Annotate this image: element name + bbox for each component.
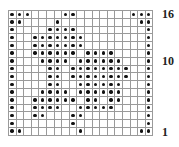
filled-cell	[100, 50, 108, 58]
empty-cell	[93, 128, 101, 136]
filled-cell	[77, 81, 85, 89]
empty-cell	[85, 112, 93, 120]
filled-cell	[115, 97, 123, 105]
filled-cell	[115, 89, 123, 97]
filled-cell	[123, 66, 131, 74]
filled-cell	[9, 50, 17, 58]
empty-cell	[24, 42, 32, 50]
empty-cell	[55, 128, 63, 136]
filled-cell	[100, 66, 108, 74]
filled-cell	[24, 11, 32, 19]
empty-cell	[85, 27, 93, 35]
empty-cell	[24, 105, 32, 113]
filled-cell	[70, 66, 78, 74]
empty-cell	[131, 42, 139, 50]
empty-cell	[24, 19, 32, 27]
filled-cell	[9, 66, 17, 74]
empty-cell	[70, 128, 78, 136]
filled-cell	[93, 89, 101, 97]
filled-cell	[55, 89, 63, 97]
filled-cell	[77, 66, 85, 74]
filled-cell	[77, 73, 85, 81]
empty-cell	[85, 34, 93, 42]
filled-cell	[85, 81, 93, 89]
empty-cell	[17, 112, 25, 120]
empty-cell	[138, 81, 146, 89]
filled-cell	[146, 128, 154, 136]
empty-cell	[24, 50, 32, 58]
filled-cell	[62, 89, 70, 97]
filled-cell	[62, 50, 70, 58]
filled-cell	[70, 112, 78, 120]
filled-cell	[93, 58, 101, 66]
empty-cell	[47, 112, 55, 120]
filled-cell	[146, 81, 154, 89]
empty-cell	[32, 120, 40, 128]
empty-cell	[24, 34, 32, 42]
filled-cell	[9, 27, 17, 35]
empty-cell	[115, 42, 123, 50]
empty-cell	[17, 27, 25, 35]
empty-cell	[17, 34, 25, 42]
filled-cell	[70, 73, 78, 81]
empty-cell	[100, 11, 108, 19]
filled-cell	[100, 105, 108, 113]
empty-cell	[24, 97, 32, 105]
empty-cell	[32, 89, 40, 97]
filled-cell	[77, 58, 85, 66]
empty-cell	[123, 81, 131, 89]
filled-cell	[93, 73, 101, 81]
empty-cell	[138, 89, 146, 97]
row-label-16: 16	[162, 8, 174, 20]
empty-cell	[47, 11, 55, 19]
empty-cell	[138, 58, 146, 66]
empty-cell	[32, 19, 40, 27]
filled-cell	[55, 73, 63, 81]
empty-cell	[17, 73, 25, 81]
empty-cell	[39, 81, 47, 89]
filled-cell	[17, 11, 25, 19]
empty-cell	[138, 120, 146, 128]
filled-cell	[85, 89, 93, 97]
filled-cell	[55, 42, 63, 50]
empty-cell	[24, 112, 32, 120]
empty-cell	[131, 58, 139, 66]
empty-cell	[131, 66, 139, 74]
filled-cell	[39, 112, 47, 120]
empty-cell	[62, 81, 70, 89]
filled-cell	[32, 112, 40, 120]
filled-cell	[146, 11, 154, 19]
empty-cell	[24, 81, 32, 89]
filled-cell	[85, 50, 93, 58]
filled-cell	[9, 112, 17, 120]
filled-cell	[100, 73, 108, 81]
filled-cell	[55, 66, 63, 74]
empty-cell	[138, 66, 146, 74]
empty-cell	[131, 128, 139, 136]
empty-cell	[32, 81, 40, 89]
empty-cell	[17, 50, 25, 58]
empty-cell	[47, 120, 55, 128]
empty-cell	[17, 120, 25, 128]
filled-cell	[108, 89, 116, 97]
empty-cell	[62, 112, 70, 120]
filled-cell	[47, 50, 55, 58]
empty-cell	[47, 128, 55, 136]
empty-cell	[123, 27, 131, 35]
filled-cell	[138, 19, 146, 27]
filled-cell	[55, 50, 63, 58]
stitch-chart	[8, 10, 153, 136]
empty-cell	[39, 11, 47, 19]
empty-cell	[123, 89, 131, 97]
filled-cell	[39, 97, 47, 105]
filled-cell	[85, 58, 93, 66]
filled-cell	[9, 11, 17, 19]
empty-cell	[62, 73, 70, 81]
empty-cell	[24, 89, 32, 97]
filled-cell	[62, 27, 70, 35]
filled-cell	[115, 58, 123, 66]
filled-cell	[146, 89, 154, 97]
filled-cell	[9, 81, 17, 89]
empty-cell	[85, 42, 93, 50]
empty-cell	[108, 19, 116, 27]
